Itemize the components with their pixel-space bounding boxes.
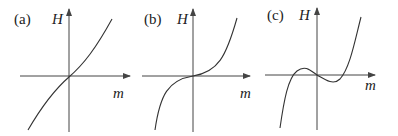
x-axis-label: m bbox=[113, 85, 124, 101]
curve bbox=[280, 17, 361, 128]
x-axis-label: m bbox=[240, 85, 251, 101]
curve bbox=[155, 18, 237, 130]
x-axis-label: m bbox=[365, 77, 376, 93]
panel-c: (c) H m bbox=[265, 7, 376, 130]
curve bbox=[28, 19, 112, 130]
y-axis-label: H bbox=[176, 11, 189, 27]
panel-label: (b) bbox=[144, 11, 162, 28]
y-axis-label: H bbox=[51, 11, 64, 27]
figure: (a) H m (b) H m (c) H m bbox=[0, 0, 398, 136]
panel-a: (a) H m bbox=[14, 9, 130, 132]
panel-b: (b) H m bbox=[142, 9, 251, 132]
panel-label: (c) bbox=[267, 7, 284, 24]
y-axis-label: H bbox=[298, 7, 311, 23]
panel-label: (a) bbox=[14, 11, 31, 28]
